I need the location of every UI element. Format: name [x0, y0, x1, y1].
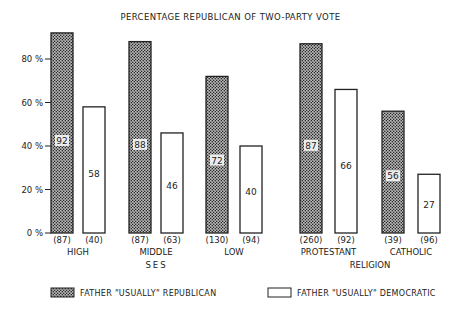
value-label: 92	[56, 136, 67, 146]
value-label: 27	[423, 200, 434, 210]
value-label: 72	[211, 156, 222, 166]
value-label: 58	[88, 169, 100, 179]
value-label: 56	[387, 171, 399, 181]
value-label: 87	[305, 141, 316, 151]
sample-size-label: (96)	[420, 235, 437, 245]
sample-size-label: (39)	[384, 235, 401, 245]
value-label: 88	[134, 140, 146, 150]
y-tick-label: 60 %	[21, 98, 43, 108]
y-tick-label: 0 %	[27, 228, 43, 238]
sample-size-label: (130)	[206, 235, 229, 245]
category-label: PROTESTANT	[301, 247, 357, 257]
legend-label-democratic: FATHER "USUALLY" DEMOCRATIC	[297, 289, 436, 298]
legend-swatch-republican	[51, 288, 74, 297]
sample-size-label: (94)	[242, 235, 259, 245]
bar-republican	[51, 33, 73, 233]
value-label: 46	[166, 181, 178, 191]
legend: FATHER "USUALLY" REPUBLICAN FATHER "USUA…	[51, 288, 436, 298]
value-label: 66	[340, 161, 352, 171]
y-axis: 0 %20 %40 %60 %80 %	[21, 54, 51, 238]
group-label-religion: RELIGION	[350, 260, 391, 270]
sample-size-label: (87)	[53, 235, 70, 245]
y-tick-label: 40 %	[21, 141, 43, 151]
category-label: HIGH	[67, 247, 89, 257]
legend-label-republican: FATHER "USUALLY" REPUBLICAN	[80, 289, 216, 298]
bar-chart: 0 %20 %40 %60 %80 % 92(87)58(40)HIGH88(8…	[0, 0, 461, 313]
legend-swatch-democratic	[268, 288, 291, 297]
bar-republican	[300, 44, 322, 233]
bar-republican	[129, 42, 151, 233]
sample-size-label: (92)	[337, 235, 354, 245]
bars: 92(87)58(40)HIGH88(87)46(63)MIDDLE72(130…	[51, 33, 440, 270]
sample-size-label: (63)	[163, 235, 180, 245]
category-label: LOW	[224, 247, 244, 257]
value-label: 40	[245, 187, 257, 197]
sample-size-label: (87)	[131, 235, 148, 245]
category-label: MIDDLE	[139, 247, 172, 257]
y-tick-label: 80 %	[21, 54, 43, 64]
sample-size-label: (260)	[300, 235, 323, 245]
category-label: CATHOLIC	[390, 247, 433, 257]
sample-size-label: (40)	[85, 235, 102, 245]
y-tick-label: 20 %	[21, 185, 43, 195]
group-label-ses: SES	[145, 260, 167, 270]
